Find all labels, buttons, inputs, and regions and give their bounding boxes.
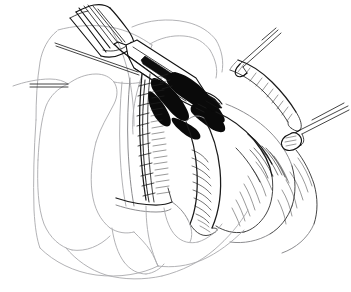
surgical-illustration-figure <box>0 0 351 292</box>
illustration-canvas <box>0 0 351 292</box>
